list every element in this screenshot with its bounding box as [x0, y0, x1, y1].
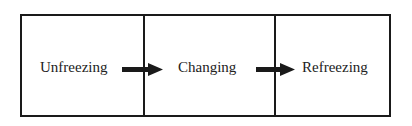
stage-refreezing-label: Refreezing — [302, 59, 368, 76]
arrow-right-icon — [122, 63, 164, 77]
stage-unfreezing-label: Unfreezing — [40, 59, 107, 76]
stage-changing-label: Changing — [178, 59, 236, 76]
arrow-right-icon — [256, 63, 298, 77]
